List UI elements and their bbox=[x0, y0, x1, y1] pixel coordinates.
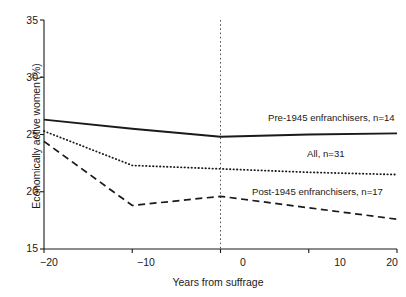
x-tick-marks bbox=[44, 249, 397, 253]
annotation-pre-1945: Pre-1945 enfranchisers, n=14 bbox=[268, 112, 395, 123]
chart-figure: Economically active women (%) Years from… bbox=[0, 0, 406, 297]
y-tick-marks bbox=[40, 20, 44, 249]
annotation-all: All, n=31 bbox=[307, 148, 345, 159]
plot-canvas bbox=[0, 0, 406, 297]
annotation-post-1945: Post-1945 enfranchisers, n=17 bbox=[252, 186, 383, 197]
